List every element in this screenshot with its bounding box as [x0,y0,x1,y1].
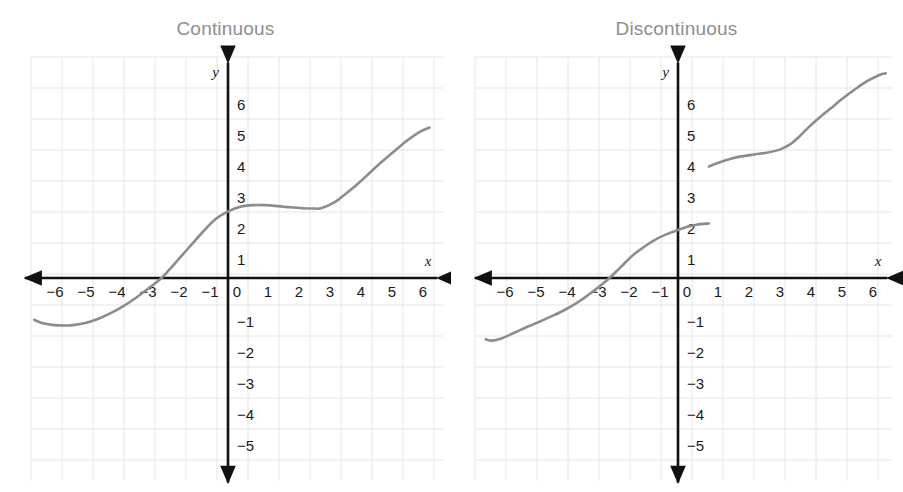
x-tick-label: −5 [77,283,94,300]
x-tick-label: 1 [714,283,722,300]
x-tick-label: 6 [869,283,877,300]
y-axis-label: y [210,64,219,80]
y-tick-label: 1 [687,251,695,268]
y-tick-label: −1 [687,313,704,330]
x-tick-label: 4 [807,283,815,300]
y-tick-label: 3 [237,189,245,206]
y-tick-label: 2 [237,220,245,237]
y-tick-label: −1 [237,313,254,330]
y-tick-label: 4 [237,158,245,175]
axes [25,63,437,483]
y-tick-label: 3 [687,189,695,206]
plot-discontinuous: −6−5−4−3−2−10123456654321−1−2−3−4−5xy [451,0,903,492]
x-tick-label: 1 [264,283,272,300]
y-tick-label: −3 [687,375,704,392]
y-tick-label: 6 [237,96,245,113]
x-axis-label: x [424,253,432,269]
x-tick-label: 5 [388,283,396,300]
x-tick-label: 3 [776,283,784,300]
x-tick-label: 4 [357,283,365,300]
y-tick-label: −2 [237,344,254,361]
y-tick-label: 6 [687,96,695,113]
plot-continuous: −6−5−4−3−2−10123456654321−1−2−3−4−5xy [0,0,451,492]
y-tick-label: −5 [237,437,254,454]
x-tick-label: 2 [745,283,753,300]
x-tick-label: −2 [620,283,637,300]
y-tick-label: −5 [687,437,704,454]
x-tick-label: −1 [651,283,668,300]
x-tick-label: 6 [419,283,427,300]
x-tick-label: 3 [326,283,334,300]
x-tick-label: −2 [170,283,187,300]
x-tick-label: −4 [558,283,575,300]
x-tick-label: −6 [46,283,63,300]
x-tick-label: 5 [838,283,846,300]
curve-group [486,73,886,340]
x-tick-label: −6 [496,283,513,300]
y-tick-label: 4 [687,158,695,175]
y-tick-label: −3 [237,375,254,392]
x-tick-label: 2 [295,283,303,300]
y-tick-label: 2 [687,220,695,237]
y-tick-label: −4 [237,406,254,423]
y-axis-label: y [660,64,669,80]
x-tick-label: 0 [233,283,241,300]
x-tick-label: 0 [683,283,691,300]
y-tick-label: −2 [687,344,704,361]
y-tick-label: 5 [687,127,695,144]
y-tick-label: 1 [237,251,245,268]
x-tick-label: −1 [201,283,218,300]
function-curve [709,73,886,166]
x-axis-label: x [874,253,882,269]
x-tick-label: −4 [108,283,125,300]
y-tick-label: 5 [237,127,245,144]
x-tick-label: −5 [527,283,544,300]
figure-continuous: Continuous −6−5−4−3−2−10123456654321−1−2… [0,0,451,492]
grid [475,57,892,481]
y-tick-label: −4 [687,406,704,423]
figure-discontinuous: Discontinuous −6−5−4−3−2−10123456654321−… [451,0,902,492]
